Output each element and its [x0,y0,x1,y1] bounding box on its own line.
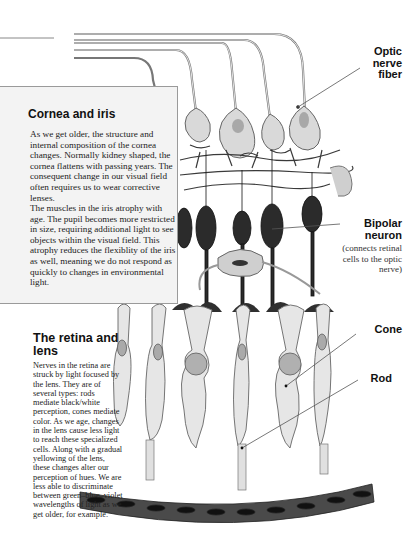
retina-lens-body: Nerves in the retina are struck by light… [33,361,123,519]
label-bipolar-note: (connects retinal cells to the optic ner… [340,243,402,275]
cornea-paragraph-1: As we get older, the structure and inter… [30,129,176,203]
amacrine-cell [199,249,320,294]
retina-lens-title: The retina and lens [33,332,123,358]
label-bipolar-neuron: Bipolar neuron [340,218,402,241]
optic-leader-line [298,68,360,107]
label-cone: Cone [356,324,402,336]
outer-segments [146,440,328,490]
cornea-paragraph-2: The muscles in the iris atrophy with age… [30,203,176,288]
label-rod: Rod [358,373,392,385]
photoreceptors [114,304,332,448]
label-optic-nerve-fiber: Optic nerve fiber [352,46,402,81]
rod-leader-line [242,380,358,448]
cornea-iris-title: Cornea and iris [28,107,115,121]
bipolar-neurons [176,150,322,310]
ganglion-cells [185,106,320,159]
pigment-epithelium [80,484,374,523]
cornea-iris-box: Cornea and iris As we get older, the str… [0,86,178,304]
horizontal-cell-tail [330,166,352,196]
